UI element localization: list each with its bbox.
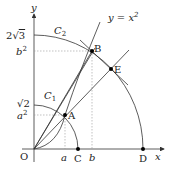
x-tick-b: b (89, 152, 95, 163)
y-tick-root2: √2 (17, 98, 30, 109)
label-a: A (67, 110, 76, 121)
point-a (63, 113, 67, 117)
y-axis-label: y (30, 2, 37, 13)
circle-c1-label: C1 (44, 90, 56, 103)
origin-label: O (20, 151, 28, 162)
curve-label: y = x2 (107, 11, 139, 23)
y-tick-2root3: 2√3 (6, 30, 25, 41)
diagram-canvas: y x O y = x2 C2 C1 2√3 b2 √2 a2 a b A B … (0, 0, 174, 176)
point-c (76, 147, 80, 151)
point-e (109, 67, 113, 71)
parabola-curve (34, 22, 100, 149)
x-tick-a: a (61, 152, 67, 163)
y-tick-a2: a2 (17, 109, 27, 121)
circle-c2-label: C2 (54, 25, 66, 38)
x-axis-label: x (155, 151, 161, 162)
point-d (141, 147, 145, 151)
label-b: B (94, 43, 101, 54)
label-c: C (74, 153, 82, 164)
y-tick-b2: b2 (16, 45, 27, 57)
label-e: E (114, 64, 121, 75)
line-be (80, 40, 128, 85)
label-d: D (139, 153, 147, 164)
